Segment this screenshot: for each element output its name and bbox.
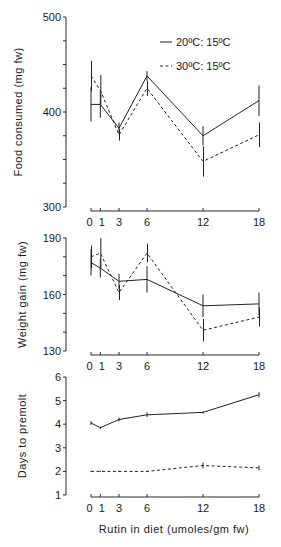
- x-axis-label: Rutin in diet (umoles/gm fw): [99, 523, 249, 535]
- series-line-2: [91, 466, 259, 472]
- x-tick-label: 0: [86, 216, 92, 228]
- x-tick-label: 12: [197, 360, 209, 372]
- series-line-2: [91, 253, 259, 330]
- legend-label-2: 30ºC: 15ºC: [176, 60, 231, 72]
- chart-panel-2: 130160190Weight gain (mg fw)01361218: [16, 232, 265, 372]
- y-tick-label: 300: [43, 201, 61, 213]
- x-tick-label: 0: [86, 502, 92, 514]
- y-tick-label: 1: [55, 489, 61, 501]
- chart-panel-3: 123456Days to premolt01361218Rutin in di…: [16, 371, 265, 535]
- y-tick-label: 500: [43, 11, 61, 23]
- x-tick-label: 18: [253, 360, 265, 372]
- legend: 20ºC: 15ºC30ºC: 15ºC: [160, 36, 231, 72]
- y-axis-label: Weight gain (mg fw): [16, 241, 28, 348]
- x-tick-label: 18: [253, 502, 265, 514]
- series-line-1: [91, 76, 259, 136]
- x-tick-label: 3: [116, 360, 122, 372]
- x-tick-label: 6: [144, 216, 150, 228]
- legend-label-1: 20ºC: 15ºC: [176, 36, 231, 48]
- x-tick-label: 6: [144, 502, 150, 514]
- x-tick-label: 1: [99, 502, 105, 514]
- x-tick-label: 18: [253, 216, 265, 228]
- x-tick-label: 6: [144, 360, 150, 372]
- series-line-1: [91, 395, 259, 428]
- x-tick-label: 3: [116, 502, 122, 514]
- y-axis-label: Food consumed (mg fw): [12, 47, 24, 176]
- series-line-2: [91, 76, 259, 161]
- y-tick-label: 6: [55, 371, 61, 383]
- x-tick-label: 12: [197, 216, 209, 228]
- y-axis-label: Days to premolt: [16, 394, 28, 479]
- y-tick-label: 190: [43, 232, 61, 244]
- y-tick-label: 5: [55, 395, 61, 407]
- y-tick-label: 400: [43, 106, 61, 118]
- chart-panel-1: 300400500Food consumed (mg fw)0136121820…: [12, 11, 265, 228]
- y-tick-label: 2: [55, 465, 61, 477]
- x-tick-label: 12: [197, 502, 209, 514]
- y-tick-label: 130: [43, 345, 61, 357]
- y-tick-label: 160: [43, 289, 61, 301]
- figure: 300400500Food consumed (mg fw)0136121820…: [0, 0, 281, 547]
- y-tick-label: 3: [55, 442, 61, 454]
- x-tick-label: 1: [99, 360, 105, 372]
- x-tick-label: 1: [99, 216, 105, 228]
- x-tick-label: 0: [86, 360, 92, 372]
- y-tick-label: 4: [55, 418, 61, 430]
- x-tick-label: 3: [116, 216, 122, 228]
- series-line-1: [91, 263, 259, 306]
